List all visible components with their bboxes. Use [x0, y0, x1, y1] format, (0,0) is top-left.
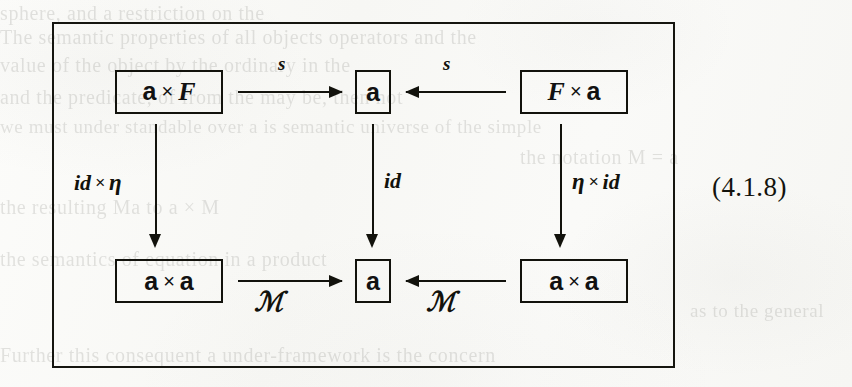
symbol-times: ×	[568, 271, 580, 291]
arrowhead-left-icon	[405, 86, 419, 98]
arrow-script-m-left-to-mid	[238, 274, 342, 288]
arrowhead-right-icon	[329, 86, 343, 98]
symbol-a: a	[549, 269, 563, 294]
arrow-shaft	[238, 91, 342, 93]
arrow-label-s-right: s	[443, 54, 450, 73]
symbol-F: F	[548, 79, 565, 105]
symbol-script-m: ℳ	[254, 289, 285, 316]
arrow-script-m-right-to-mid	[406, 274, 506, 288]
symbol-times: ×	[163, 271, 175, 291]
symbol-times: ×	[161, 81, 173, 101]
arrowhead-down-icon	[554, 234, 566, 248]
symbol-a: a	[585, 269, 599, 294]
arrow-shaft	[238, 280, 342, 282]
arrow-shaft	[372, 124, 374, 239]
arrow-label-s-left: s	[278, 54, 285, 73]
arrow-shaft	[560, 124, 562, 239]
arrow-id-middle	[366, 124, 380, 247]
arrow-label-id-middle: id	[384, 170, 401, 192]
arrow-shaft	[406, 280, 506, 282]
label-group: id × η	[74, 171, 122, 194]
symbol-eta: η	[109, 171, 122, 194]
object-label: a × F	[143, 79, 196, 105]
object-label: a × a	[549, 269, 599, 294]
symbol-F: F	[178, 79, 195, 105]
arrow-s-left-to-mid	[238, 85, 342, 99]
object-label: a	[366, 269, 380, 294]
symbol-a: a	[587, 79, 601, 104]
object-box-a-times-a-right: a × a	[520, 259, 628, 303]
symbol-a: a	[143, 79, 157, 104]
equation-number: (4.1.8)	[712, 172, 787, 203]
symbol-script-m: ℳ	[426, 289, 457, 316]
object-label: a × a	[144, 269, 194, 294]
symbol-id: id	[74, 172, 91, 194]
symbol-eta: η	[572, 170, 585, 193]
arrowhead-down-icon	[366, 234, 378, 248]
arrow-label-script-m-right: ℳ	[427, 289, 456, 316]
arrow-label-id-times-eta: id × η	[74, 171, 122, 194]
symbol-a: a	[180, 269, 194, 294]
arrowhead-right-icon	[329, 275, 343, 287]
object-box-a-times-F: a × F	[115, 70, 223, 114]
symbol-times: ×	[95, 174, 105, 191]
arrow-id-times-eta	[149, 124, 163, 247]
object-box-a-top: a	[355, 70, 391, 114]
arrowhead-left-icon	[405, 275, 419, 287]
arrow-label-script-m-left: ℳ	[255, 289, 284, 316]
ghost-line: as to the general	[690, 300, 824, 322]
arrow-s-right-to-mid	[406, 85, 506, 99]
label-group: η × id	[572, 170, 620, 193]
object-box-a-bottom: a	[355, 259, 391, 303]
symbol-a: a	[366, 269, 380, 294]
object-label: a	[366, 80, 380, 105]
symbol-a: a	[366, 80, 380, 105]
object-label: F × a	[548, 79, 601, 105]
arrow-label-eta-times-id: η × id	[572, 170, 620, 193]
symbol-times: ×	[570, 81, 582, 101]
arrow-shaft	[155, 124, 157, 239]
scanned-page: sphere, and a restriction on the The sem…	[0, 0, 852, 387]
symbol-times: ×	[589, 173, 599, 190]
symbol-id: id	[603, 171, 620, 193]
arrow-shaft	[406, 91, 506, 93]
arrowhead-down-icon	[149, 234, 161, 248]
arrow-eta-times-id	[554, 124, 568, 247]
object-box-a-times-a-left: a × a	[115, 259, 223, 303]
symbol-a: a	[144, 269, 158, 294]
object-box-F-times-a: F × a	[520, 70, 628, 114]
